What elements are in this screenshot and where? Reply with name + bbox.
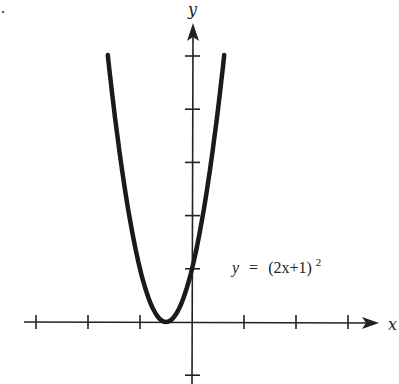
x-axis-label: x — [388, 315, 397, 334]
y-axis-label: y — [187, 0, 198, 19]
parabola-curve — [108, 55, 224, 322]
y-axis — [192, 36, 193, 384]
equation-label: y = (2x+1) 2 — [230, 256, 321, 277]
parabola-graph: . x y y = (2x+1) 2 — [0, 0, 399, 384]
corner-mark: . — [1, 0, 5, 16]
x-axis — [24, 322, 370, 323]
